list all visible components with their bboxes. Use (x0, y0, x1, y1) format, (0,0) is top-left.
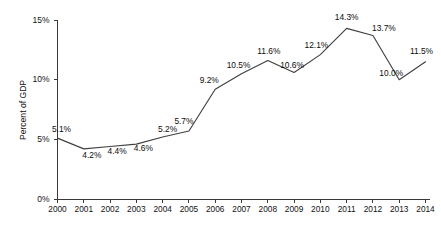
x-tick-label: 2012 (364, 204, 383, 214)
data-point-label: 11.5% (410, 46, 434, 56)
x-tick-label: 2014 (416, 204, 435, 214)
y-tick-label: 15% (32, 15, 49, 25)
chart-container: Percent of GDP 0%5%10%15% 20002001200220… (0, 0, 441, 236)
data-point-label: 5.7% (174, 116, 194, 126)
y-tick-label: 0% (37, 194, 50, 204)
data-point-labels: 5.1%4.2%4.4%4.6%5.2%5.7%9.2%10.5%11.6%10… (52, 12, 434, 160)
line-chart: Percent of GDP 0%5%10%15% 20002001200220… (0, 0, 441, 236)
y-tick-label: 5% (37, 134, 50, 144)
x-tick-label: 2013 (390, 204, 409, 214)
data-point-label: 5.1% (52, 124, 72, 134)
y-tick-label: 10% (32, 74, 49, 84)
data-point-label: 12.1% (304, 40, 328, 50)
y-axis-title: Percent of GDP (18, 80, 28, 140)
x-tick-label: 2006 (206, 204, 225, 214)
x-tick-label: 2002 (101, 204, 120, 214)
data-point-label: 11.6% (257, 46, 281, 56)
data-point-label: 10.5% (227, 60, 251, 70)
series-line-percent-of-gdp (58, 28, 426, 149)
x-tick-label: 2003 (127, 204, 146, 214)
x-tick-label: 2000 (48, 204, 67, 214)
data-point-label: 13.7% (372, 23, 396, 33)
y-axis-ticks: 0%5%10%15% (32, 15, 57, 204)
y-axis-title-group: Percent of GDP (18, 80, 28, 140)
x-tick-label: 2007 (232, 204, 251, 214)
x-tick-label: 2005 (180, 204, 199, 214)
x-tick-label: 2008 (259, 204, 278, 214)
data-point-label: 4.4% (108, 146, 128, 156)
data-point-label: 9.2% (200, 75, 220, 85)
data-point-label: 14.3% (335, 12, 359, 22)
data-point-label: 10.0% (379, 68, 403, 78)
data-point-label: 10.6% (280, 60, 304, 70)
x-tick-label: 2009 (285, 204, 304, 214)
x-tick-label: 2001 (75, 204, 94, 214)
data-point-label: 4.2% (82, 150, 102, 160)
data-point-label: 4.6% (134, 143, 154, 153)
x-tick-label: 2004 (153, 204, 172, 214)
x-tick-label: 2010 (311, 204, 330, 214)
x-tick-label: 2011 (338, 204, 356, 214)
x-axis-ticks: 2000200120022003200420052006200720082009… (48, 199, 435, 214)
